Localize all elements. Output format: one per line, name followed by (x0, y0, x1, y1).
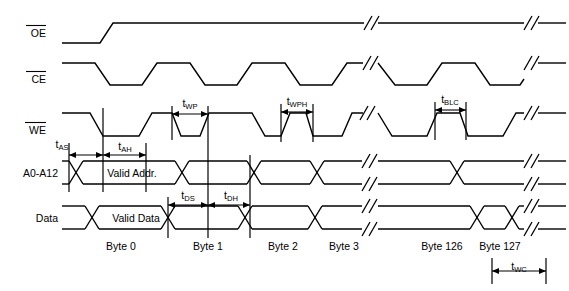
signal-label-we-text: WE (29, 124, 46, 136)
oe-segment-left (62, 23, 364, 43)
break-mark-addr-1 (362, 154, 377, 191)
timing-label-tblc: tBLC (441, 93, 459, 107)
dimension-tas: tAS (55, 138, 103, 158)
dimension-tds: tDS (168, 189, 208, 208)
timing-diagram-figure: OE CE WE A0-A12 Data (0, 0, 569, 291)
reference-ticks (69, 102, 546, 284)
timing-diagram-svg: OE CE WE A0-A12 Data (0, 0, 569, 291)
timing-label-twph: tWPH (287, 95, 308, 109)
waveform-ce (62, 56, 566, 85)
ce-segment-left (62, 63, 363, 85)
dimension-tdh: tDH (208, 189, 250, 208)
bus-value-valid-addr: Valid Addr. (107, 167, 156, 179)
break-mark-we-2 (524, 106, 539, 120)
dimension-tblc: tBLC (435, 93, 466, 113)
break-mark-oe-2 (524, 16, 539, 30)
byte-label-byte-2: Byte 2 (268, 240, 298, 252)
byte-labels-row: Byte 0 Byte 1 Byte 2 Byte 3 Byte 126 Byt… (106, 240, 521, 252)
byte-label-byte-126: Byte 126 (421, 240, 463, 252)
byte-label-byte-0: Byte 0 (106, 240, 136, 252)
break-mark-oe-1 (364, 16, 379, 30)
timing-label-tas: tAS (55, 138, 68, 152)
waveform-oe (62, 16, 566, 43)
break-mark-data-1 (362, 199, 377, 236)
signal-label-a0-a12-text: A0-A12 (23, 167, 58, 179)
break-mark-data-2 (524, 199, 539, 236)
byte-label-byte-127: Byte 127 (479, 240, 521, 252)
we-segment-mid (378, 113, 524, 136)
timing-label-twc: tWC (511, 260, 527, 274)
timing-label-tds: tDS (181, 189, 194, 203)
signal-label-a0-a12: A0-A12 (23, 167, 58, 179)
dimension-tah: tAH (103, 140, 146, 158)
dimension-twph: tWPH (281, 95, 313, 115)
timing-label-twp: tWP (182, 97, 197, 111)
signal-label-data-text: Data (36, 212, 58, 224)
byte-label-byte-3: Byte 3 (329, 240, 359, 252)
signal-label-data: Data (36, 212, 58, 224)
timing-label-tdh: tDH (224, 189, 238, 203)
break-mark-addr-2 (524, 154, 539, 191)
signal-label-oe-text: OE (31, 27, 46, 39)
dimension-twc: tWC (492, 260, 546, 274)
waveform-we (62, 106, 566, 136)
byte-label-byte-1: Byte 1 (193, 240, 223, 252)
we-segment-left (62, 113, 363, 136)
bus-value-valid-data: Valid Data (112, 212, 160, 224)
ce-segment-mid (378, 63, 524, 85)
waveform-a0-a12: Valid Addr. (62, 154, 566, 191)
waveform-data: Valid Data (62, 199, 566, 236)
break-mark-ce-2 (524, 56, 539, 70)
signal-label-we: WE (25, 123, 46, 137)
signal-label-ce-text: CE (31, 73, 46, 85)
signal-label-ce: CE (26, 72, 46, 86)
timing-label-tah: tAH (118, 140, 131, 154)
dimension-twp: tWP (172, 97, 208, 117)
break-mark-ce-1 (363, 56, 378, 70)
signal-label-oe: OE (26, 26, 46, 40)
